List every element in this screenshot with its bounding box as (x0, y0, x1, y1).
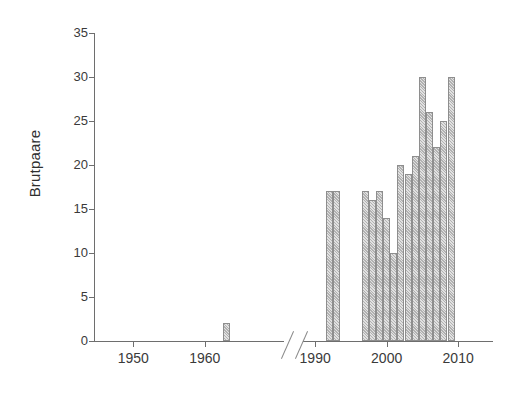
bar (412, 156, 419, 341)
x-tick-label-text: 1990 (287, 350, 343, 366)
y-tick-label-text: 30 (56, 70, 88, 83)
y-tick-label-text: 10 (56, 246, 88, 259)
bar (390, 253, 397, 341)
y-tick-label-text: 35 (56, 26, 88, 39)
y-tick-label: 20 (50, 158, 88, 171)
y-tick-mark (89, 253, 95, 254)
y-tick-mark (89, 33, 95, 34)
x-tick-label-text: 2000 (359, 350, 415, 366)
bar (405, 174, 412, 341)
y-tick-label-text: 15 (56, 202, 88, 215)
x-tick-mark (133, 341, 134, 347)
y-tick-label: 15 (50, 202, 88, 215)
y-tick-mark (89, 209, 95, 210)
bar (433, 147, 440, 341)
x-axis-line-left (94, 341, 284, 342)
y-axis-line (94, 33, 95, 341)
y-tick-mark (89, 297, 95, 298)
x-tick-mark (387, 341, 388, 347)
y-tick-label: 35 (50, 26, 88, 39)
y-axis-title: Brutpaare (26, 94, 43, 234)
plot-area: Brutpaare 05101520253035 195019601990200… (0, 0, 523, 399)
bar (440, 121, 447, 341)
bar (223, 323, 230, 341)
bar (397, 165, 404, 341)
chart-figure: Brutpaare 05101520253035 195019601990200… (0, 0, 523, 399)
y-tick-label: 0 (50, 334, 88, 347)
bar (426, 112, 433, 341)
y-tick-label: 25 (50, 114, 88, 127)
bar (333, 191, 340, 341)
y-tick-label-text: 25 (56, 114, 88, 127)
bar (383, 218, 390, 341)
y-tick-mark (89, 77, 95, 78)
y-tick-label-text: 0 (56, 334, 88, 347)
y-tick-label-text: 20 (56, 158, 88, 171)
bar (448, 77, 455, 341)
bar (362, 191, 369, 341)
x-tick-label-text: 2010 (430, 350, 486, 366)
y-tick-mark (89, 341, 95, 342)
y-tick-label: 30 (50, 70, 88, 83)
x-tick-mark (315, 341, 316, 347)
x-tick-label-text: 1950 (105, 350, 161, 366)
bar (419, 77, 426, 341)
x-tick-mark (205, 341, 206, 347)
x-axis-line-right (303, 341, 493, 342)
y-tick-label: 5 (50, 290, 88, 303)
y-tick-label-text: 5 (56, 290, 88, 303)
y-tick-mark (89, 165, 95, 166)
bar (376, 191, 383, 341)
x-tick-label-text: 1960 (177, 350, 233, 366)
y-tick-label: 10 (50, 246, 88, 259)
bar (326, 191, 333, 341)
bar (369, 200, 376, 341)
y-tick-mark (89, 121, 95, 122)
x-tick-mark (458, 341, 459, 347)
